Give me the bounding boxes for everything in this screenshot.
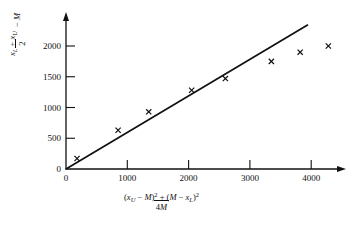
x-axis-ticks: 01000200030004000 — [64, 160, 321, 183]
y-tick-label: 2000 — [43, 41, 62, 51]
y-tick-label: 500 — [48, 133, 62, 143]
axes-group — [63, 12, 346, 172]
data-point-marker — [189, 88, 194, 93]
chart-figure: 0500100015002000 01000200030004000 xL + … — [0, 0, 355, 225]
reference-line — [66, 25, 308, 169]
x-tick-label: 3000 — [241, 173, 260, 183]
y-axis-ticks: 0500100015002000 — [43, 41, 75, 174]
x-axis-label: (xU − M)2 + (M − xL)2 4M — [122, 192, 201, 212]
data-point-marker — [326, 43, 331, 48]
data-point-marker — [269, 59, 274, 64]
reference-line-segment — [66, 25, 308, 169]
y-tick-label: 0 — [57, 164, 62, 174]
data-points-group — [74, 43, 331, 161]
x-tick-label: 0 — [64, 173, 69, 183]
y-tick-label: 1500 — [43, 72, 62, 82]
x-axis-label-denominator: 4M — [154, 200, 169, 212]
data-point-marker — [116, 128, 121, 133]
y-axis-label-tail: − M — [13, 13, 22, 29]
data-point-marker — [146, 109, 151, 114]
x-tick-label: 1000 — [118, 173, 137, 183]
x-axis-arrowhead — [337, 166, 346, 172]
y-axis-label-denominator: 2 — [15, 39, 27, 47]
y-axis-label: xL + xU 2 − M — [8, 13, 27, 58]
data-point-marker — [223, 76, 228, 81]
y-axis-arrowhead — [63, 12, 69, 21]
x-tick-label: 2000 — [180, 173, 199, 183]
x-tick-label: 4000 — [302, 173, 321, 183]
data-point-marker — [74, 156, 79, 161]
y-tick-label: 1000 — [43, 103, 62, 113]
data-point-marker — [298, 50, 303, 55]
